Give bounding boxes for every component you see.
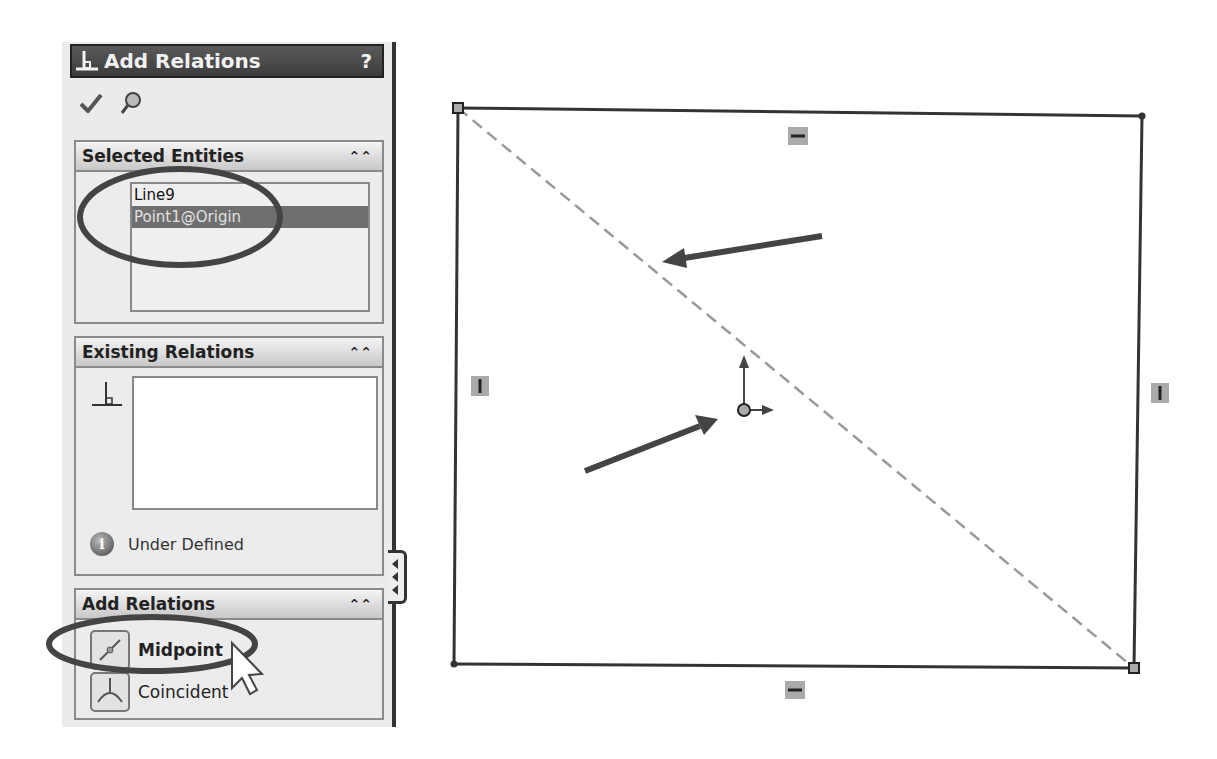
right-line[interactable] — [1134, 116, 1142, 668]
annotation-arrow-diagonal — [662, 236, 822, 268]
endpoint-handle[interactable] — [1129, 663, 1139, 673]
horizontal-relation-badge[interactable] — [785, 681, 805, 699]
vertical-relation-badge[interactable] — [1151, 383, 1169, 403]
annotation-arrow-origin — [585, 415, 718, 471]
left-line[interactable] — [454, 108, 458, 664]
vertical-relation-badge[interactable] — [471, 376, 489, 396]
top-line[interactable] — [458, 108, 1142, 116]
corner-point[interactable] — [451, 661, 458, 668]
diagonal-construction-line[interactable] — [458, 108, 1134, 668]
bottom-line[interactable] — [454, 664, 1134, 668]
corner-point[interactable] — [1139, 113, 1146, 120]
graphics-area[interactable] — [0, 0, 1217, 759]
endpoint-handle[interactable] — [453, 103, 463, 113]
horizontal-relation-badge[interactable] — [788, 127, 808, 145]
rectangle-sketch[interactable] — [454, 108, 1142, 668]
